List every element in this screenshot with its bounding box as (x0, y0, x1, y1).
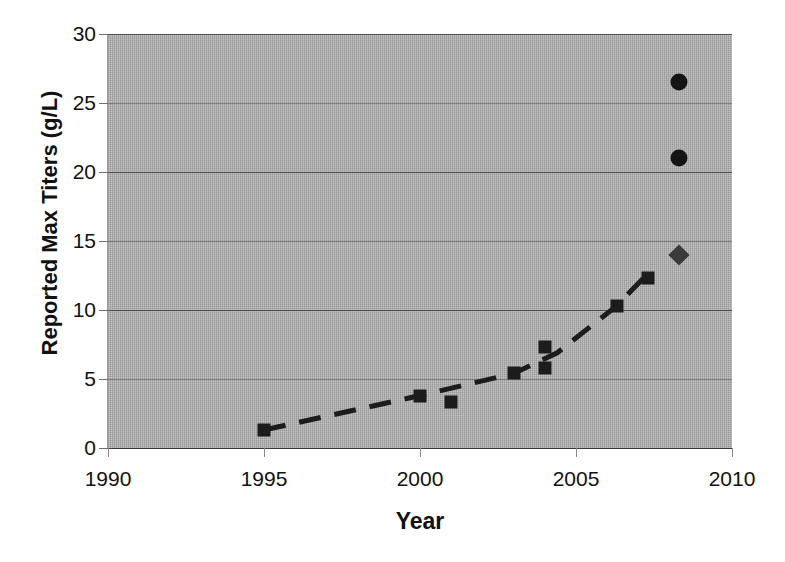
data-point-circle-1-0 (670, 74, 687, 91)
gridline-y-5 (108, 379, 732, 380)
x-tick-mark-2010 (732, 448, 733, 457)
y-tick-label-5: 5 (34, 368, 96, 389)
data-point-square-0-0 (258, 424, 271, 437)
data-point-diamond-2-0 (668, 244, 689, 265)
data-point-square-0-4 (538, 341, 551, 354)
y-tick-mark-10 (99, 310, 108, 311)
gridline-y-15 (108, 241, 732, 242)
y-tick-mark-15 (99, 241, 108, 242)
x-tick-label-2005: 2005 (526, 468, 626, 489)
y-tick-label-15: 15 (34, 230, 96, 251)
y-tick-mark-25 (99, 103, 108, 104)
x-tick-label-2000: 2000 (370, 468, 470, 489)
gridline-y-30 (108, 34, 732, 35)
y-tick-label-30: 30 (34, 23, 96, 44)
x-tick-mark-1995 (264, 448, 265, 457)
y-tick-label-10: 10 (34, 299, 96, 320)
y-tick-mark-0 (99, 448, 108, 449)
y-tick-label-25: 25 (34, 92, 96, 113)
gridline-y-10 (108, 310, 732, 311)
y-tick-label-0: 0 (34, 437, 96, 458)
y-tick-label-20: 20 (34, 161, 96, 182)
x-tick-label-2010: 2010 (682, 468, 782, 489)
chart-figure: Reported Max Titers (g/L) Year 051015202… (0, 0, 785, 562)
data-point-square-0-1 (414, 389, 427, 402)
gridline-y-20 (108, 172, 732, 173)
y-tick-mark-5 (99, 379, 108, 380)
data-point-square-0-7 (641, 272, 654, 285)
data-point-square-0-3 (507, 367, 520, 380)
x-tick-mark-1990 (108, 448, 109, 457)
gridline-y-25 (108, 103, 732, 104)
data-point-circle-1-1 (670, 150, 687, 167)
data-point-square-0-5 (538, 361, 551, 374)
y-tick-mark-30 (99, 34, 108, 35)
x-axis-title: Year (108, 508, 732, 535)
data-point-square-0-6 (610, 299, 623, 312)
data-point-square-0-2 (445, 396, 458, 409)
plot-area (108, 34, 732, 448)
x-tick-label-1995: 1995 (214, 468, 314, 489)
x-tick-mark-2005 (576, 448, 577, 457)
x-tick-mark-2000 (420, 448, 421, 457)
x-tick-label-1990: 1990 (58, 468, 158, 489)
y-tick-mark-20 (99, 172, 108, 173)
